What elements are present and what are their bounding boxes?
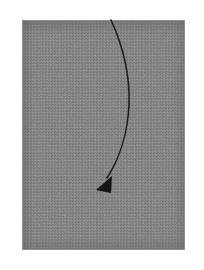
panel-edge-shade-horizontal: [22, 20, 185, 250]
gray-shaded-region: [22, 20, 185, 250]
figure-container: [0, 0, 204, 270]
figure-canvas: [0, 0, 204, 270]
